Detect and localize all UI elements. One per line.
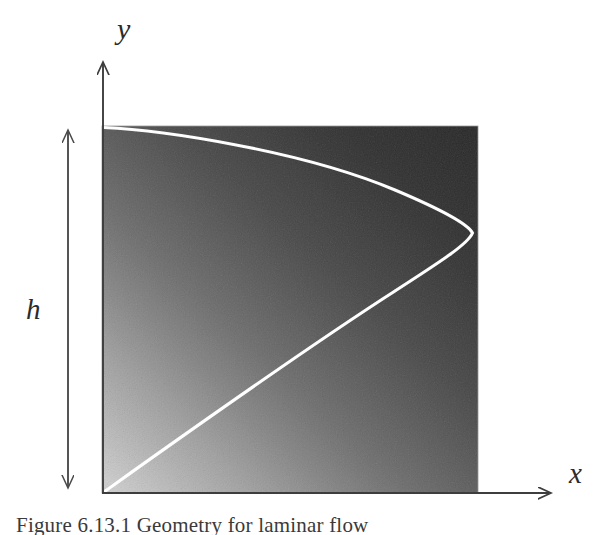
height-dimension-label: h: [26, 295, 41, 324]
figure-container: y x h Figure 6.13.1 Geometry for laminar…: [0, 0, 616, 535]
shaded-rectangle: [102, 126, 478, 493]
figure-caption: Figure 6.13.1 Geometry for laminar flow: [16, 512, 600, 535]
x-axis-label: x: [569, 459, 582, 488]
figure-graphic: [0, 0, 616, 535]
flow-domain-region: [102, 126, 478, 493]
y-axis-label: y: [117, 14, 130, 44]
